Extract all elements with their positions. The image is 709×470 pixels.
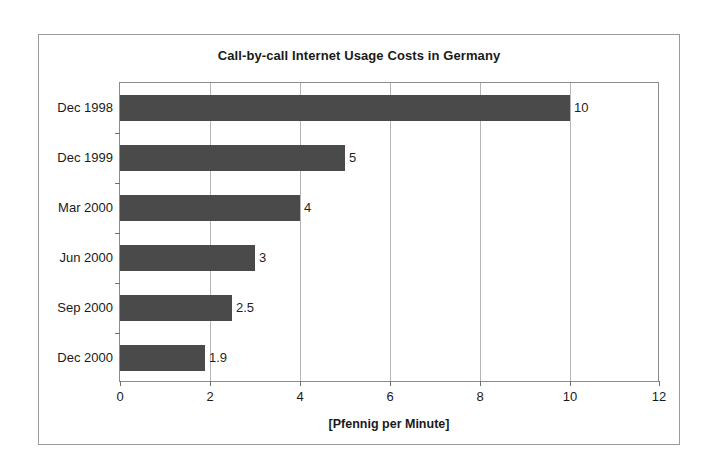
bar-value-label: 5 (345, 145, 356, 171)
category-label: Mar 2000 (58, 195, 113, 221)
chart-title: Call-by-call Internet Usage Costs in Ger… (39, 48, 679, 63)
category-label: Jun 2000 (60, 245, 114, 271)
x-tick-4 (300, 381, 301, 386)
bar-row: Dec 1999 5 (120, 133, 658, 183)
bar[interactable] (120, 245, 255, 271)
x-tick-0 (120, 381, 121, 386)
chart-figure-frame: Call-by-call Internet Usage Costs in Ger… (38, 34, 680, 445)
x-tick-label: 10 (563, 389, 577, 404)
bar-value-label: 4 (300, 195, 311, 221)
x-tick-8 (480, 381, 481, 386)
x-tick-label: 6 (386, 389, 393, 404)
bar-row: Dec 2000 1.9 (120, 333, 658, 383)
x-axis-title: [Pfennig per Minute] (119, 417, 659, 431)
x-tick-label: 8 (476, 389, 483, 404)
x-tick-label: 0 (116, 389, 123, 404)
bar[interactable] (120, 95, 570, 121)
bar-row: Jun 2000 3 (120, 233, 658, 283)
x-tick-label: 12 (652, 389, 666, 404)
plot-area: Dec 1998 10 Dec 1999 5 Mar 2000 4 Jun 20… (119, 82, 659, 382)
bar-row: Sep 2000 2.5 (120, 283, 658, 333)
bar-value-label: 2.5 (232, 295, 254, 321)
bar[interactable] (120, 295, 232, 321)
x-tick-6 (390, 381, 391, 386)
x-tick-10 (570, 381, 571, 386)
category-label: Sep 2000 (57, 295, 113, 321)
category-label: Dec 2000 (57, 345, 113, 371)
x-tick-2 (210, 381, 211, 386)
bar-value-label: 1.9 (205, 345, 227, 371)
bar-row: Dec 1998 10 (120, 83, 658, 133)
x-tick-label: 4 (296, 389, 303, 404)
bar[interactable] (120, 345, 205, 371)
x-tick-12 (659, 381, 660, 386)
bar-value-label: 3 (255, 245, 266, 271)
bar-row: Mar 2000 4 (120, 183, 658, 233)
category-label: Dec 1999 (57, 145, 113, 171)
x-tick-label: 2 (206, 389, 213, 404)
bar-value-label: 10 (570, 95, 588, 121)
bar[interactable] (120, 195, 300, 221)
bar[interactable] (120, 145, 345, 171)
category-label: Dec 1998 (57, 95, 113, 121)
